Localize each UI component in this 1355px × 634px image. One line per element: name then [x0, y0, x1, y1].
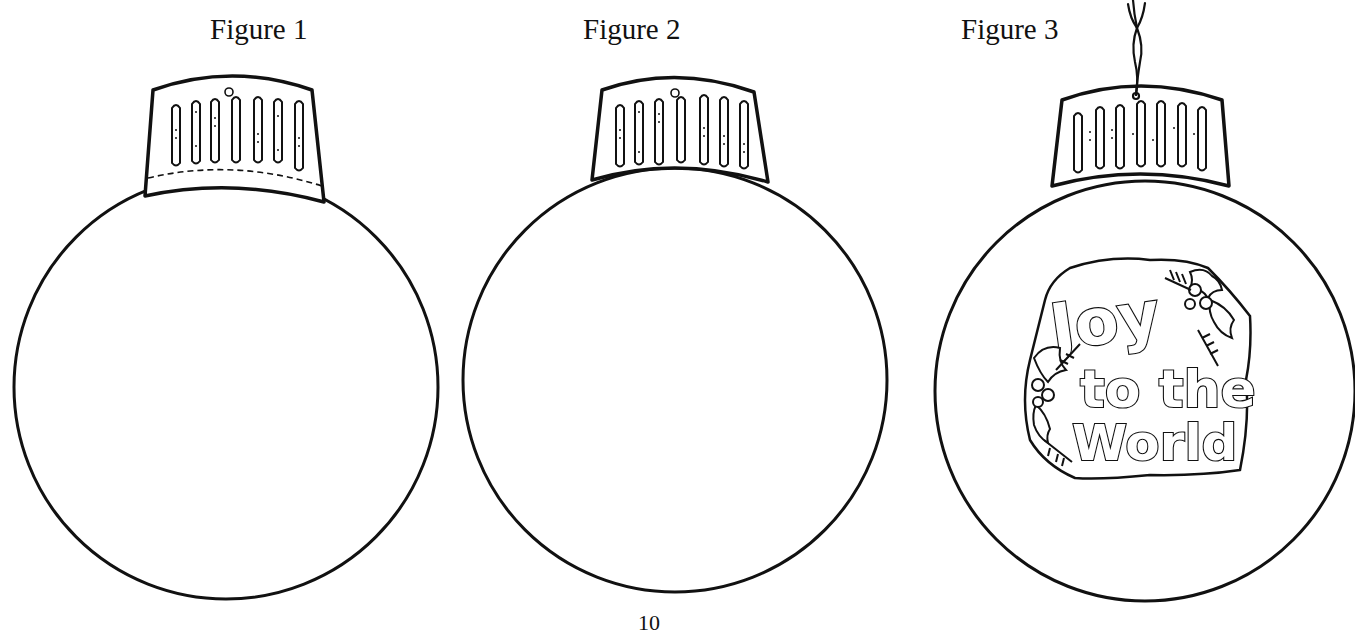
ornament-ball-2 — [463, 168, 887, 592]
ornament-cap-1 — [145, 76, 324, 202]
ornament-ball-1 — [14, 175, 438, 599]
ornament-figure-2 — [463, 77, 887, 592]
hook-loop-icon — [225, 88, 233, 96]
page-number: 10 — [638, 612, 660, 634]
emblem-line-world: World — [1072, 414, 1237, 472]
joy-to-the-world-emblem: Joy to the World — [1025, 259, 1256, 479]
ornament-figure-1 — [14, 76, 438, 599]
ornament-cap-3 — [1052, 86, 1229, 186]
hanging-string-icon — [1128, 0, 1145, 99]
emblem-line-to-the: to the — [1080, 359, 1256, 419]
ornament-figure-3: Joy to the World — [935, 0, 1355, 601]
ornament-cap-2 — [592, 77, 768, 182]
hook-loop-icon — [671, 89, 679, 97]
